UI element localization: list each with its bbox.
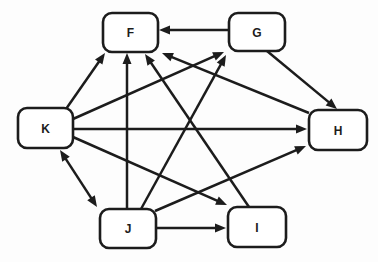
node-K: K (18, 108, 73, 148)
edge-H-F (162, 53, 309, 113)
edge-line (66, 58, 102, 109)
arrowhead-icon (296, 125, 307, 134)
edge-line (155, 148, 300, 211)
arrowhead-icon (294, 146, 306, 154)
node-label-K: K (41, 122, 50, 136)
edge-J-H (155, 146, 306, 211)
arrowhead-icon (145, 54, 155, 66)
edge-K-H (73, 125, 307, 134)
edge-line (73, 137, 221, 203)
arrowhead-icon (159, 26, 170, 35)
arrowhead-icon (215, 224, 226, 233)
arrowhead-icon (95, 53, 105, 65)
directed-graph: FGKHJI (0, 0, 378, 262)
arrowhead-icon (162, 53, 174, 61)
edge-J-I (156, 224, 226, 233)
node-I: I (228, 207, 286, 247)
edge-I-F (145, 54, 249, 207)
node-label-H: H (334, 124, 343, 138)
node-label-G: G (252, 26, 261, 40)
arrowhead-icon (60, 150, 70, 162)
node-label-I: I (255, 221, 258, 235)
edge-line (63, 155, 93, 202)
diagram-canvas: FGKHJI (0, 0, 378, 262)
edge-K-F (66, 53, 105, 109)
edge-K-J-bidirectional (60, 150, 97, 207)
node-label-F: F (127, 26, 134, 40)
edge-G-F (159, 26, 229, 35)
edge-line (267, 51, 332, 105)
node-label-J: J (125, 222, 132, 236)
arrowhead-icon (87, 195, 97, 207)
arrowhead-icon (215, 196, 227, 205)
node-G: G (229, 13, 285, 51)
node-F: F (103, 13, 158, 52)
node-H: H (309, 110, 367, 150)
edge-line (168, 55, 309, 113)
arrowhead-icon (123, 53, 132, 64)
edge-J-F (123, 53, 132, 209)
node-J: J (100, 209, 156, 248)
